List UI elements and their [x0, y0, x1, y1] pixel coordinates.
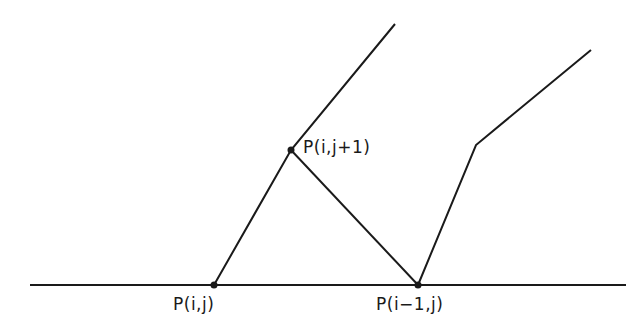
- right-polyline: [418, 50, 591, 285]
- label-p-i-j-plus-1: P(i,j+1): [303, 137, 370, 157]
- diagram-canvas: [0, 0, 642, 332]
- label-p-i-minus-1-j: P(i−1,j): [376, 294, 443, 314]
- point-p-i-j-plus-1: [288, 147, 295, 154]
- point-p-i-minus-1-j: [415, 282, 422, 289]
- diagonal-connector: [291, 150, 418, 285]
- label-p-i-j: P(i,j): [173, 294, 214, 314]
- point-p-i-j: [211, 282, 218, 289]
